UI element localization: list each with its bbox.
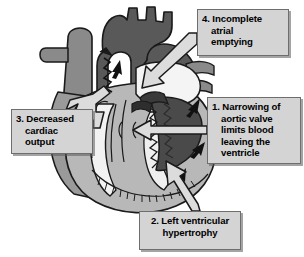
figure-canvas: 4. Incomplete atrial emptying 1. Narrowi… xyxy=(0,0,304,257)
callout-box-3[interactable]: 3. Decreased cardiac output xyxy=(11,109,93,154)
callout-box-1[interactable]: 1. Narrowing of aortic valve limits bloo… xyxy=(207,97,301,164)
callout-3-line-3: output xyxy=(16,136,88,148)
callout-box-4[interactable]: 4. Incomplete atrial emptying xyxy=(197,9,289,56)
callout-3-line-2: cardiac xyxy=(16,125,88,137)
callout-1-line-2: aortic valve xyxy=(212,113,296,125)
callout-1-line-5: ventricle xyxy=(212,147,296,159)
callout-4-line-1: 4. Incomplete xyxy=(202,13,284,25)
callout-1-line-1: 1. Narrowing of xyxy=(212,101,296,113)
callout-box-2[interactable]: 2. Left ventricular hypertrophy xyxy=(139,211,241,250)
callout-1-line-3: limits blood xyxy=(212,124,296,136)
callout-2-line-2: hypertrophy xyxy=(144,227,236,239)
callout-4-line-2: atrial xyxy=(202,25,284,37)
callout-1-line-4: leaving the xyxy=(212,136,296,148)
callout-3-line-1: 3. Decreased xyxy=(16,113,88,125)
callout-4-line-3: emptying xyxy=(202,36,284,48)
callout-2-line-1: 2. Left ventricular xyxy=(144,215,236,227)
